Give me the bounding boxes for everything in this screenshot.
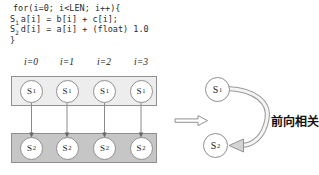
s1-node-i2: S1 (93, 80, 116, 103)
s1-node-label: S (137, 86, 142, 96)
s2-node-i2: S2 (93, 137, 116, 160)
implies-arrow-icon (175, 116, 208, 126)
iteration-label-3: i=3 (126, 57, 156, 67)
s2-summary-node: S2 (203, 133, 228, 158)
iteration-label-0: i=0 (16, 57, 46, 67)
s2-node-label: S (27, 143, 32, 153)
s1-node-label: S (213, 84, 219, 95)
s2-node-i1: S2 (56, 137, 79, 160)
s2-node-i0: S2 (20, 137, 43, 160)
code-line-brace: } (10, 35, 149, 46)
statement-s2-sub: 2 (15, 29, 19, 36)
s1-node-i1: S1 (56, 80, 79, 103)
arc-arrowhead-icon (229, 139, 244, 152)
s2-node-label: S (100, 143, 105, 153)
statement-s2-text: d[i] = a[i] + (float) 1.0 (21, 24, 149, 34)
s2-node-i3: S2 (130, 137, 153, 160)
s1-node-i3: S1 (130, 80, 153, 103)
forward-dependence-arc (228, 89, 267, 153)
s1-node-label: S (63, 86, 68, 96)
statement-s1-text: a[i] = b[i] + c[i]; (21, 14, 118, 24)
s2-node-label: S (211, 140, 217, 151)
s1-node-i0: S1 (20, 80, 43, 103)
code-line-for: for(i=0; i<LEN; i++){ (10, 3, 149, 14)
s1-node-label: S (27, 86, 32, 96)
s1-summary-node: S1 (205, 77, 230, 102)
iteration-label-2: i=2 (89, 57, 119, 67)
iteration-label-1: i=1 (52, 57, 82, 67)
code-line-s2: S2d[i] = a[i] + (float) 1.0 (10, 24, 149, 35)
forward-dependence-label: 前向相关 (271, 112, 319, 129)
s1-node-label: S (100, 86, 105, 96)
forward-dependence-figure: for(i=0; i<LEN; i++){ S1a[i] = b[i] + c[… (0, 0, 319, 175)
s2-node-label: S (137, 143, 142, 153)
s2-node-label: S (63, 143, 68, 153)
code-snippet: for(i=0; i<LEN; i++){ S1a[i] = b[i] + c[… (10, 3, 149, 45)
code-line-s1: S1a[i] = b[i] + c[i]; (10, 14, 149, 25)
